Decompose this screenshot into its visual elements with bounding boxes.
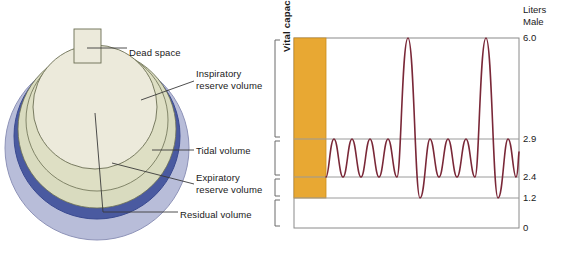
bracket-residual	[275, 200, 280, 226]
bracket-expiratory-reserve	[275, 179, 280, 196]
ytick-0: 0	[523, 223, 528, 233]
ytick-2-9: 2.9	[523, 134, 536, 144]
label-expiratory-line2: reserve volume	[196, 184, 262, 196]
chart-plot-frame	[294, 38, 519, 228]
label-dead-space: Dead space	[129, 47, 181, 59]
axis-units-liters: Liters	[523, 4, 546, 16]
label-inspiratory-line2: reserve volume	[196, 80, 262, 92]
dead-space-region	[74, 29, 101, 63]
vital-capacity-label: Vital capacity	[281, 0, 292, 52]
label-inspiratory-reserve-volume: Inspiratory reserve volume	[196, 68, 262, 91]
volume-brackets	[275, 40, 280, 226]
vital-capacity-band	[294, 38, 326, 198]
bracket-inspiratory-reserve	[275, 40, 280, 137]
label-expiratory-reserve-volume: Expiratory reserve volume	[196, 172, 262, 195]
label-expiratory-line1: Expiratory	[196, 172, 262, 184]
label-inspiratory-line1: Inspiratory	[196, 68, 262, 80]
ytick-2-4: 2.4	[523, 172, 536, 182]
chart-axis-units: Liters Male	[523, 4, 546, 28]
axis-units-male: Male	[523, 16, 546, 28]
ytick-1-2: 1.2	[523, 193, 536, 203]
lung-core-region	[33, 45, 157, 169]
spirometry-chart	[272, 0, 562, 254]
label-tidal-volume: Tidal volume	[196, 145, 251, 157]
bracket-tidal	[275, 141, 280, 175]
label-residual-volume: Residual volume	[180, 209, 252, 221]
ytick-6-0: 6.0	[523, 33, 536, 43]
lung-volumes-figure: Dead space Inspiratory reserve volume Ti…	[0, 0, 562, 254]
